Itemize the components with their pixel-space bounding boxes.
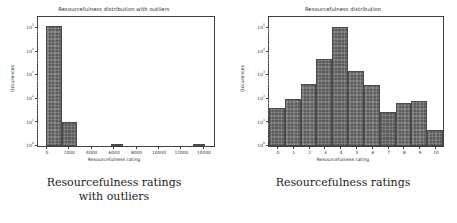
y-tick-minor [268,77,270,78]
bars-left [38,17,214,146]
x-tick-label: 0 [277,151,280,155]
histogram-bar [316,59,332,146]
y-tick: 103 [35,74,38,75]
y-tick: 105 [35,27,38,28]
figure-panel: Resourcefulness distribution with outlie… [0,0,457,223]
chart-title-right: Resourcefulness distribution [229,6,457,12]
y-tick-minor [268,34,270,35]
bars-right [269,17,443,146]
y-tick-minor [268,54,270,55]
y-tick-minor [37,127,39,128]
y-tick-minor [268,58,270,59]
y-tick-minor [37,138,39,139]
y-tick-minor [268,105,270,106]
y-tick: 101 [266,121,269,122]
y-tick-minor [37,53,39,54]
y-tick-minor [268,87,270,88]
y-tick-minor [37,87,39,88]
y-tick-label: 100 [257,144,265,149]
caption-left-line1: Resourcefulness ratings [0,176,228,190]
y-tick: 103 [266,74,269,75]
x-tick: 12000 [180,146,181,149]
caption-left: Resourcefulness ratings with outliers [0,176,228,204]
y-tick-minor [37,52,39,53]
y-tick: 102 [35,98,38,99]
y-tick-minor [37,129,39,130]
y-tick: 104 [266,51,269,52]
y-tick-minor [37,124,39,125]
y-axis-title-right: Occurences [240,59,245,99]
y-tick-minor [37,54,39,55]
y-tick-label: 105 [26,26,34,31]
y-tick-minor [268,40,270,41]
histogram-bar [285,99,301,146]
figure-resourcefulness-with-outliers: Resourcefulness distribution with outlie… [0,0,228,223]
histogram-bar [269,108,285,146]
x-tick-label: 3 [324,151,327,155]
y-tick-minor [268,110,270,111]
y-tick-minor [37,34,39,35]
y-tick-minor [37,63,39,64]
caption-right: Resourcefulness ratings [229,176,457,190]
y-tick-label: 102 [257,96,265,101]
x-tick-label: 12000 [174,151,188,155]
x-tick: 8000 [136,146,137,149]
histogram-bar [427,130,443,146]
y-axis-title-left: Occurences [10,59,15,99]
y-tick-minor [37,134,39,135]
histogram-bar [411,101,427,146]
y-tick-label: 100 [26,144,34,149]
y-tick-minor [268,60,270,61]
histogram-bar [301,84,317,146]
y-tick-minor [37,103,39,104]
x-tick-label: 1 [292,151,295,155]
y-tick-minor [268,53,270,54]
x-tick: 5 [356,146,357,149]
x-tick: 10000 [158,146,159,149]
y-tick-minor [37,77,39,78]
y-tick-minor [37,91,39,92]
x-tick-label: 6000 [109,151,120,155]
y-tick-label: 105 [257,26,265,31]
y-tick-minor [268,44,270,45]
y-tick: 100 [266,145,269,146]
y-tick: 104 [35,51,38,52]
y-tick-minor [268,131,270,132]
y-tick-minor [268,134,270,135]
y-tick-minor [268,100,270,101]
caption-left-line2: with outliers [0,190,228,204]
x-tick: 2 [309,146,310,149]
y-tick-minor [37,40,39,41]
y-tick-minor [268,91,270,92]
histogram-bar [46,26,62,146]
x-tick: 6000 [113,146,114,149]
x-axis-title-left: Resourcefulness rating [0,157,228,162]
chart-title-left: Resourcefulness distribution with outlie… [0,6,228,12]
x-tick: 4000 [91,146,92,149]
histogram-bar [62,122,78,146]
plot-area-right: Resourcefulness distribution 10010110210… [229,0,457,172]
y-tick-minor [268,123,270,124]
y-tick-minor [37,56,39,57]
y-tick: 101 [35,121,38,122]
histogram-bar [348,71,364,146]
x-tick-label: 10 [433,151,439,155]
x-tick: 3 [324,146,325,149]
y-tick-minor [37,105,39,106]
y-tick-minor [37,80,39,81]
histogram-bar [332,27,348,146]
x-tick-label: 4000 [86,151,97,155]
x-axis-title-right: Resourcefulness rating [229,157,457,162]
y-tick-minor [268,67,270,68]
x-tick: 0 [46,146,47,149]
y-tick-minor [268,127,270,128]
axes-right: 100101102103104105 012345678910 [268,16,444,147]
y-tick-label: 101 [26,120,34,125]
y-tick-minor [37,102,39,103]
x-tick-label: 7 [387,151,390,155]
y-tick-minor [268,114,270,115]
y-tick-label: 104 [257,49,265,54]
y-tick-minor [37,110,39,111]
histogram-bar [364,85,380,146]
x-tick: 6 [372,146,373,149]
